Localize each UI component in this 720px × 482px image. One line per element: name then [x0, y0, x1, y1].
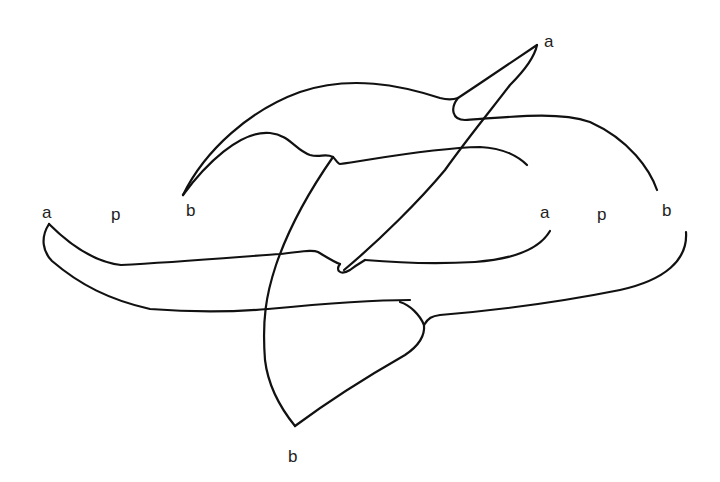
label-top-a: a: [544, 33, 553, 50]
spike-lower: [453, 98, 657, 190]
label-left-p: p: [111, 206, 120, 223]
band-upper-left: [49, 224, 340, 265]
label-bottom-b: b: [288, 448, 297, 465]
band-right-a: [365, 231, 550, 263]
label-left-a: a: [42, 204, 51, 221]
band-right-b: [424, 232, 686, 325]
label-right-p: p: [597, 206, 606, 223]
band-lower-left: [44, 224, 410, 311]
label-right-b: b: [662, 202, 671, 219]
center-loop: [338, 260, 365, 272]
strand-to-bottom-b: [264, 157, 333, 426]
diagonal-to-top-a: [344, 45, 537, 270]
label-left-b: b: [186, 202, 195, 219]
inner-arc: [183, 133, 527, 195]
bottom-lobe-right: [295, 302, 424, 426]
knot-diagram: [0, 0, 720, 482]
label-right-a: a: [540, 204, 549, 221]
